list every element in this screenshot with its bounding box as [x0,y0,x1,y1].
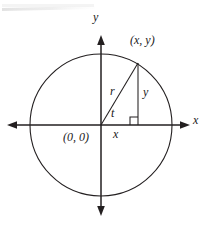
x-axis-left-arrowhead [7,121,17,129]
unit-circle-figure: y x (x, y) (0, 0) r t y x [0,0,210,226]
vertical-leg-label: y [143,86,148,98]
y-axis-bottom-arrowhead [97,206,105,216]
origin-label: (0, 0) [63,131,89,143]
horizontal-leg-label: x [113,128,118,140]
point-label: (x, y) [130,34,155,46]
x-axis-label: x [193,114,198,126]
radius-label: r [110,85,115,97]
y-axis-label: y [93,11,98,23]
radius-segment [101,63,138,125]
right-angle-marker [130,117,138,125]
y-axis-top-arrowhead [97,35,105,45]
diagram-canvas [0,0,210,226]
x-axis-right-arrowhead [180,121,190,129]
angle-label: t [111,107,114,119]
